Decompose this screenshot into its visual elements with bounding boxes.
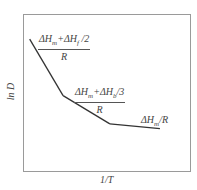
annotation-segment-1-numerator: ΔHm+ΔHf /2 xyxy=(38,33,90,50)
annotation-segment-1-denominator: R xyxy=(38,50,90,62)
annotation-segment-3: ΔHm/R xyxy=(141,114,168,128)
annotation-segment-1: ΔHm+ΔHf /2 R xyxy=(38,33,90,62)
annotation-segment-2-denominator: R xyxy=(74,103,125,115)
annotation-segment-2: ΔHm+ΔHb/3 R xyxy=(74,86,125,115)
y-axis-label: ln D xyxy=(5,83,16,101)
x-axis-label: 1/T xyxy=(100,174,113,185)
annotation-segment-2-numerator: ΔHm+ΔHb/3 xyxy=(74,86,125,103)
